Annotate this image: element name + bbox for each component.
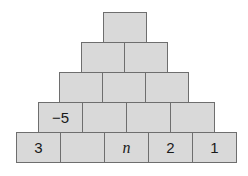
pyramid-block-value: 1: [192, 132, 237, 163]
pyramid-block: [170, 102, 215, 133]
pyramid-row-2: [81, 42, 168, 73]
pyramid-block-value: −5: [38, 102, 83, 133]
pyramid-block-value: 3: [16, 132, 61, 163]
pyramid-block: [145, 72, 189, 103]
pyramid-block: [59, 72, 103, 103]
pyramid-block: [60, 132, 105, 163]
pyramid-block: [82, 102, 127, 133]
pyramid-block: [103, 12, 147, 43]
pyramid-row-1: [103, 12, 147, 43]
pyramid-row-5: 3 n 2 1: [16, 132, 237, 163]
pyramid-block-variable: n: [104, 132, 149, 163]
pyramid-block: [81, 42, 125, 73]
pyramid-block-value: 2: [148, 132, 193, 163]
pyramid-row-4: −5: [38, 102, 215, 133]
number-pyramid: −5 3 n 2 1: [0, 0, 248, 176]
pyramid-row-3: [59, 72, 189, 103]
pyramid-block: [126, 102, 171, 133]
pyramid-block: [102, 72, 146, 103]
pyramid-block: [124, 42, 168, 73]
